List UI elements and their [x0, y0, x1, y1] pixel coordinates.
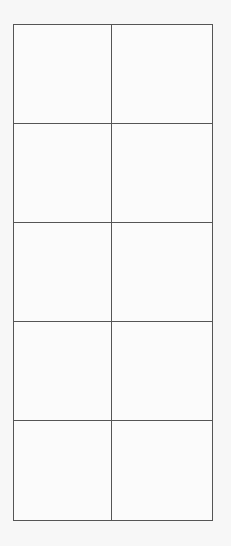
grid-cell-r4-c1 [14, 322, 112, 421]
grid-cell-r4-c2 [112, 322, 212, 421]
grid-cell-r2-c1 [14, 124, 112, 223]
grid-cell-r1-c1 [14, 25, 112, 124]
empty-grid-table [13, 24, 213, 521]
grid-cell-r3-c2 [112, 223, 212, 322]
grid-cell-r5-c2 [112, 421, 212, 520]
grid-cell-r5-c1 [14, 421, 112, 520]
grid-cell-r3-c1 [14, 223, 112, 322]
grid-cell-r1-c2 [112, 25, 212, 124]
grid-cell-r2-c2 [112, 124, 212, 223]
